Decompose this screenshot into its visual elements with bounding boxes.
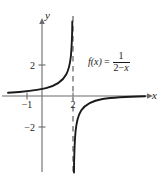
plot-canvas: y x −1 2 2 −2 xyxy=(0,0,163,176)
x-axis-label: x xyxy=(151,89,157,101)
formula-function-name: f(x) xyxy=(88,57,102,67)
formula-equals-sign: = xyxy=(104,57,110,67)
graph-figure: y x −1 2 2 −2 f(x) = 1 2−x xyxy=(0,0,163,176)
formula-fraction: 1 2−x xyxy=(113,51,130,73)
ytick-label-neg2: −2 xyxy=(24,122,35,133)
function-formula-annotation: f(x) = 1 2−x xyxy=(88,51,130,73)
formula-denominator-variable: x xyxy=(124,62,128,73)
xtick-label-neg1: −1 xyxy=(22,99,33,110)
curve-right-branch xyxy=(74,96,145,172)
formula-numerator: 1 xyxy=(117,51,126,62)
curve-left-branch xyxy=(8,22,72,93)
ytick-label-2: 2 xyxy=(30,60,35,71)
y-axis-label: y xyxy=(44,9,50,21)
xtick-label-2: 2 xyxy=(71,99,76,110)
y-axis xyxy=(39,18,45,172)
formula-denominator: 2−x xyxy=(113,63,130,74)
